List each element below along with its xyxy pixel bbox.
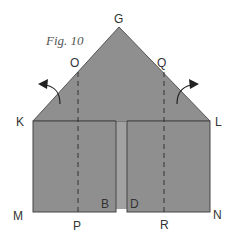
label-N: N xyxy=(213,208,222,222)
label-B: B xyxy=(101,197,109,211)
label-O: O xyxy=(70,56,79,70)
label-D: D xyxy=(130,197,139,211)
label-Q: Q xyxy=(157,56,166,70)
label-P: P xyxy=(73,219,81,233)
origami-diagram: Fig. 10 G O Q K L M N P R B D xyxy=(0,0,231,238)
figure-caption: Fig. 10 xyxy=(45,33,84,48)
right-flap xyxy=(127,121,210,212)
label-G: G xyxy=(114,12,123,26)
label-K: K xyxy=(16,115,24,129)
label-R: R xyxy=(160,218,169,232)
roof-base-fill xyxy=(116,110,127,121)
label-L: L xyxy=(215,115,222,129)
label-M: M xyxy=(13,209,23,223)
